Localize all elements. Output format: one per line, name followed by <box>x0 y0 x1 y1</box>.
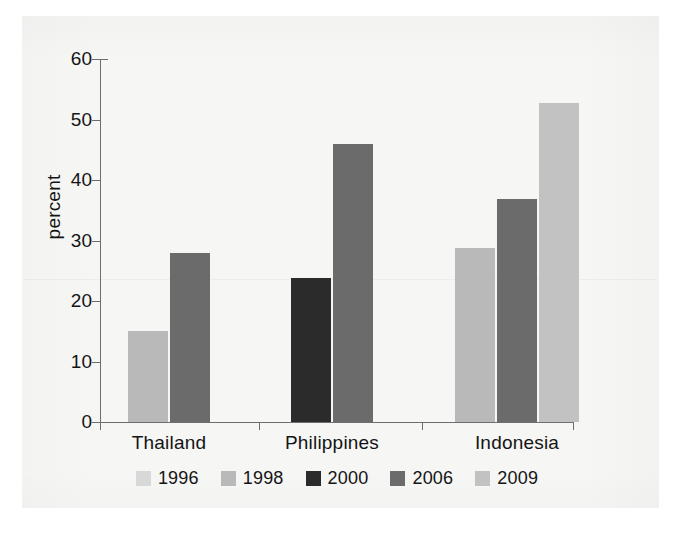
x-axis-tick <box>259 422 260 430</box>
bar-thailand-2006[interactable] <box>170 253 210 422</box>
chart-legend: 19961998200020062009 <box>100 469 574 487</box>
x-axis-tick <box>100 422 101 430</box>
legend-label: 1998 <box>243 469 284 487</box>
legend-label: 2006 <box>412 469 453 487</box>
x-axis-tick <box>573 422 574 430</box>
y-axis-tick-label-wrap: 30 <box>36 241 92 242</box>
y-axis-tick <box>92 301 100 302</box>
y-axis-line <box>100 59 101 423</box>
bar-indonesia-2006[interactable] <box>497 199 537 422</box>
y-axis-tick-label: 10 <box>46 352 92 371</box>
bar-thailand-1998[interactable] <box>128 331 168 422</box>
legend-item-1996[interactable]: 1996 <box>136 469 199 487</box>
y-axis-tick-label-wrap: 50 <box>36 120 92 121</box>
x-axis-label-thailand: Thailand <box>84 432 254 454</box>
bar-chart-plot: percent 0102030405060 ThailandPhilippine… <box>0 0 679 541</box>
legend-label: 1996 <box>158 469 199 487</box>
legend-item-1998[interactable]: 1998 <box>221 469 284 487</box>
x-axis-label-philippines: Philippines <box>247 432 417 454</box>
legend-swatch-icon <box>221 471 236 486</box>
x-axis-line <box>100 422 574 423</box>
y-axis-tick-label: 30 <box>46 231 92 250</box>
chart-page: percent 0102030405060 ThailandPhilippine… <box>0 0 679 541</box>
bar-philippines-2006[interactable] <box>333 144 373 422</box>
x-axis-label-indonesia: Indonesia <box>432 432 602 454</box>
y-axis-tick-label-wrap: 20 <box>36 301 92 302</box>
bar-indonesia-2009[interactable] <box>539 103 579 422</box>
legend-swatch-icon <box>390 471 405 486</box>
y-axis-tick-label: 60 <box>46 49 92 68</box>
y-axis-top-cap <box>100 59 108 60</box>
y-axis-tick-label-wrap: 10 <box>36 362 92 363</box>
y-axis-tick-label-wrap: 60 <box>36 59 92 60</box>
y-axis-tick-label: 40 <box>46 170 92 189</box>
legend-label: 2009 <box>497 469 538 487</box>
y-axis-tick <box>92 422 100 423</box>
legend-item-2000[interactable]: 2000 <box>306 469 369 487</box>
legend-swatch-icon <box>306 471 321 486</box>
y-axis-tick <box>92 241 100 242</box>
y-axis-tick-label: 0 <box>46 412 92 431</box>
y-axis-tick-label-wrap: 40 <box>36 180 92 181</box>
legend-label: 2000 <box>328 469 369 487</box>
y-axis-tick <box>92 59 100 60</box>
legend-item-2009[interactable]: 2009 <box>475 469 538 487</box>
bar-philippines-2000[interactable] <box>291 278 331 422</box>
legend-item-2006[interactable]: 2006 <box>390 469 453 487</box>
legend-swatch-icon <box>136 471 151 486</box>
y-axis-tick-label: 20 <box>46 291 92 310</box>
y-axis-tick-label-wrap: 0 <box>36 422 92 423</box>
y-axis-tick-label: 50 <box>46 110 92 129</box>
y-axis-tick <box>92 120 100 121</box>
bar-indonesia-1998[interactable] <box>455 248 495 422</box>
y-axis-tick <box>92 362 100 363</box>
x-axis-tick <box>422 422 423 430</box>
legend-swatch-icon <box>475 471 490 486</box>
y-axis-tick <box>92 180 100 181</box>
